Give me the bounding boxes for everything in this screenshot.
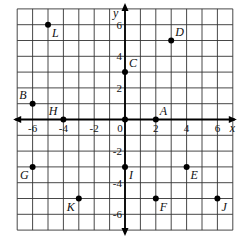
y-tick-label: -2 (113, 145, 122, 157)
y-axis-up-arrow-icon (122, 3, 129, 11)
point-label-F: F (159, 200, 168, 214)
point-origin (122, 117, 128, 123)
point-I (122, 164, 128, 170)
point-label-K: K (66, 200, 76, 214)
x-tick-label: 6 (215, 122, 221, 134)
point-G (30, 164, 36, 170)
point-label-G: G (20, 168, 29, 182)
point-label-J: J (221, 200, 227, 214)
y-tick-label: -6 (113, 208, 123, 220)
tick-labels: -6-4-20246642-2-4-6xy (28, 6, 236, 220)
points: LDCBHAGIEKFJ (19, 22, 227, 214)
point-label-A: A (159, 104, 168, 118)
y-axis-label: y (112, 6, 119, 20)
point-label-H: H (48, 104, 59, 118)
y-tick-label: 6 (117, 19, 123, 31)
point-label-L: L (51, 26, 59, 40)
point-A (153, 117, 159, 123)
point-label-I: I (128, 168, 134, 182)
point-D (168, 38, 174, 44)
x-tick-label: -6 (28, 122, 38, 134)
x-axis-label: x (229, 121, 236, 135)
point-label-C: C (129, 56, 138, 70)
point-J (214, 196, 220, 202)
y-tick-label: 2 (117, 82, 123, 94)
point-K (76, 196, 82, 202)
x-tick-label: 0 (117, 122, 123, 134)
point-C (122, 69, 128, 75)
point-F (153, 196, 159, 202)
point-label-E: E (190, 168, 199, 182)
coordinate-plane: -6-4-20246642-2-4-6xy LDCBHAGIEKFJ (0, 0, 242, 248)
x-tick-label: 4 (184, 122, 190, 134)
point-H (60, 117, 66, 123)
point-L (45, 22, 51, 28)
x-tick-label: 2 (153, 122, 159, 134)
point-label-D: D (174, 25, 184, 39)
x-tick-label: -4 (59, 122, 69, 134)
point-label-B: B (19, 88, 27, 102)
y-tick-label: 4 (117, 50, 123, 62)
y-tick-label: -4 (113, 177, 123, 189)
point-E (184, 164, 190, 170)
x-tick-label: -2 (90, 122, 99, 134)
y-axis-down-arrow-icon (122, 228, 129, 236)
point-B (30, 101, 36, 107)
